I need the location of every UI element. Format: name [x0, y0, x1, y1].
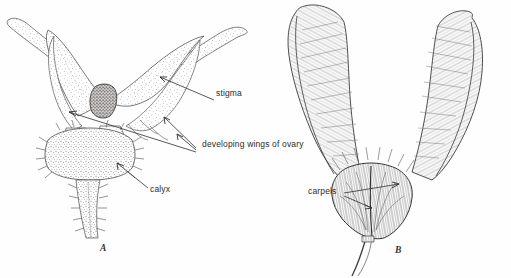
- label-calyx: calyx: [150, 184, 170, 194]
- botanical-figure: stigma developing wings of ovary calyx c…: [0, 0, 511, 278]
- pedicel-a: [68, 180, 108, 238]
- samara-wing-left: [288, 5, 360, 178]
- panel-b-drawing: [288, 5, 483, 276]
- label-stigma: stigma: [216, 88, 242, 98]
- figure-letter-a: A: [100, 243, 106, 253]
- calyx-cup: [36, 120, 144, 180]
- panel-a-drawing: [7, 18, 247, 238]
- stigma-knob: [90, 84, 117, 118]
- samara-wing-right: [412, 11, 483, 180]
- figure-letter-b: B: [395, 245, 401, 255]
- label-carpels: carpels: [308, 186, 336, 196]
- stalk-b: [352, 236, 374, 276]
- label-developing-wings-of-ovary: developing wings of ovary: [202, 139, 304, 149]
